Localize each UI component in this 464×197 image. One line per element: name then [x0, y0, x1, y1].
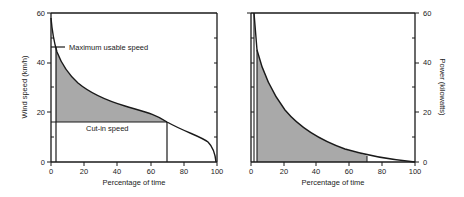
left-xtick-60: 60	[147, 167, 155, 176]
left-xtick-20: 20	[80, 167, 88, 176]
right-ytick-60: 60	[423, 9, 431, 18]
right-ytick-0: 0	[423, 158, 427, 167]
left-y-axis-label: Wind speed (km/h)	[20, 55, 29, 118]
right-y-axis-label: Power (kilowatts)	[438, 58, 447, 116]
left-ytick-40: 40	[37, 58, 45, 67]
left-shaded-region	[56, 47, 167, 122]
left-ytick-0: 0	[41, 158, 45, 167]
left-ytick-60: 60	[37, 9, 45, 18]
left-ytick-20: 20	[37, 108, 45, 117]
right-xtick-20: 20	[280, 167, 288, 176]
cut-in-speed-annotation: Cut-in speed	[86, 124, 129, 133]
right-xtick-80: 80	[378, 167, 386, 176]
left-xtick-0: 0	[49, 167, 53, 176]
right-xtick-0: 0	[249, 167, 253, 176]
left-chart: 60 40 20 0 0 20 40 60 80 100 Percentage …	[20, 9, 223, 187]
right-chart: 60 40 20 0 0 20 40 60 80 100 Percentage …	[247, 9, 447, 187]
chart-figure: 60 40 20 0 0 20 40 60 80 100 Percentage …	[0, 0, 464, 197]
right-xtick-60: 60	[345, 167, 353, 176]
left-xtick-100: 100	[211, 167, 224, 176]
right-xtick-40: 40	[312, 167, 320, 176]
chart-svg: 60 40 20 0 0 20 40 60 80 100 Percentage …	[0, 0, 464, 197]
left-xtick-40: 40	[113, 167, 121, 176]
left-x-axis-label: Percentage of time	[103, 178, 166, 187]
left-xtick-80: 80	[180, 167, 188, 176]
right-ytick-20: 20	[423, 108, 431, 117]
right-shaded-region	[257, 50, 368, 162]
max-usable-speed-annotation: Maximum usable speed	[69, 43, 148, 52]
right-ytick-40: 40	[423, 58, 431, 67]
right-xtick-100: 100	[409, 167, 422, 176]
right-x-axis-label: Percentage of time	[302, 178, 365, 187]
